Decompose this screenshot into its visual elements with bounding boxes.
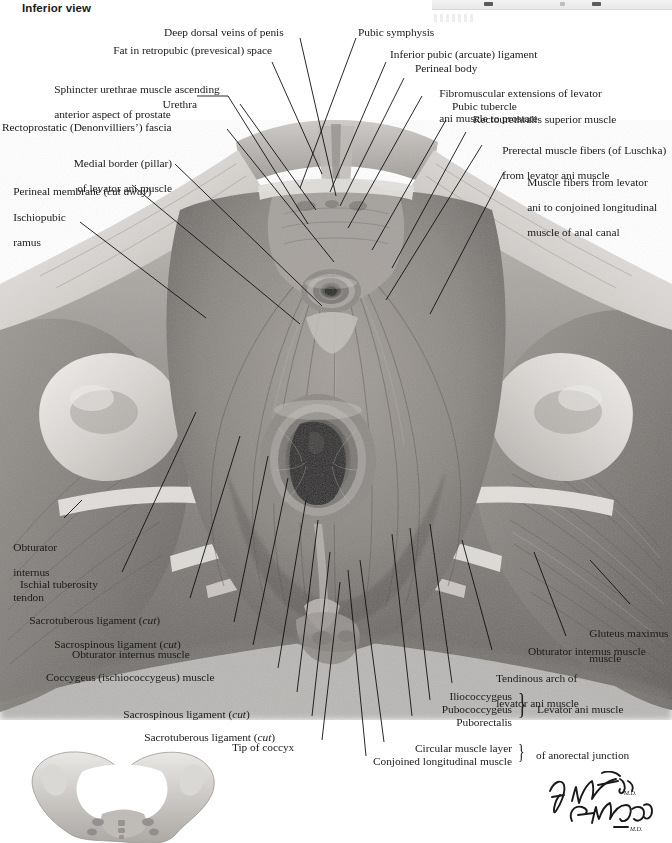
brace2-caption-anorectal-junction: of anorectal junction <box>536 749 672 762</box>
lll2-em: cut <box>143 614 157 626</box>
label-prerectal-line1: Prerectal muscle fibers (of Luschka) <box>502 144 666 156</box>
label-medial-border-line1: Medial border (pillar) <box>74 157 172 169</box>
label-obturator-internus-muscle-right: Obturator internus muscle <box>528 645 672 658</box>
brace2-glyph: } <box>518 740 525 762</box>
label-gluteus-line1: Gluteus maximus <box>589 627 668 639</box>
illustration-page: Inferior view <box>0 0 672 843</box>
brace1-glyph: } <box>518 688 527 718</box>
label-perineal-membrane-em: cut away <box>107 185 147 197</box>
label-muscle-fibers-levator: Muscle fibers from levator ani to conjoi… <box>516 163 672 251</box>
label-sphincter-urethrae-line1: Sphincter urethrae muscle ascending <box>54 83 220 95</box>
brace2-item-conjoined-longitudinal: Conjoined longitudinal muscle <box>330 755 512 768</box>
label-fat-retropubic: Fat in retropubic (prevesical) space <box>0 44 272 57</box>
lll2-pre: Sacrotuberous ligament ( <box>29 614 142 626</box>
label-ischiopubic-ramus-line2: ramus <box>13 236 41 248</box>
label-pubic-symphysis: Pubic symphysis <box>358 26 488 39</box>
label-obturator-internus-muscle: Obturator internus muscle <box>72 648 272 661</box>
label-ischiopubic-ramus-line1: Ischiopubic <box>13 211 66 223</box>
brace2-item-circular-muscle: Circular muscle layer <box>330 742 512 755</box>
label-fibromuscular-line1: Fibromuscular extensions of levator <box>439 87 601 99</box>
brace1-item-iliococcygeus: Iliococcygeus <box>368 690 512 703</box>
label-ischial-tuberosity: Ischial tuberosity <box>20 578 160 591</box>
label-urethra: Urethra <box>0 98 197 111</box>
brace1-item-puborectalis: Puborectalis <box>368 716 512 729</box>
label-rectourethralis-superior: Rectourethralis superior muscle <box>473 113 672 126</box>
svg-text:M.D.: M.D. <box>623 790 636 796</box>
label-muscle-fibers-line1: Muscle fibers from levator <box>527 176 647 188</box>
label-oi-tendon-line2: internus <box>13 566 49 578</box>
label-muscle-fibers-line3: muscle of anal canal <box>527 226 619 238</box>
label-coccygeus-muscle: Coccygeus (ischiococcygeus) muscle <box>46 671 286 684</box>
label-perineal-membrane-pre: Perineal membrane ( <box>13 185 107 197</box>
label-ischiopubic-ramus: Ischiopubic ramus <box>2 198 112 261</box>
label-inferior-pubic-ligament: Inferior pubic (arcuate) ligament <box>390 48 608 61</box>
lll2-post: ) <box>156 614 160 626</box>
label-perineal-membrane-post: ) <box>148 185 152 197</box>
label-deep-dorsal-veins: Deep dorsal veins of penis <box>164 26 314 39</box>
svg-text:M.D.: M.D. <box>629 826 642 832</box>
brace1-item-pubococcygeus: Pubococcygeus <box>368 703 512 716</box>
label-muscle-fibers-line2: ani to conjoined longitudinal <box>527 201 657 213</box>
label-perineal-body: Perineal body <box>415 62 525 75</box>
brace1-caption-levator-ani: Levator ani muscle <box>537 703 672 716</box>
artist-signature: M.D. M.D. <box>544 771 662 837</box>
label-tendinous-arch-line1: Tendinous arch of <box>496 672 577 684</box>
label-rectoprostatic-fascia: Rectoprostatic (Denonvilliers’) fascia <box>2 121 242 134</box>
label-oi-tendon-line1: Obturator <box>13 541 57 553</box>
label-pubic-tubercle: Pubic tubercle <box>452 100 562 113</box>
